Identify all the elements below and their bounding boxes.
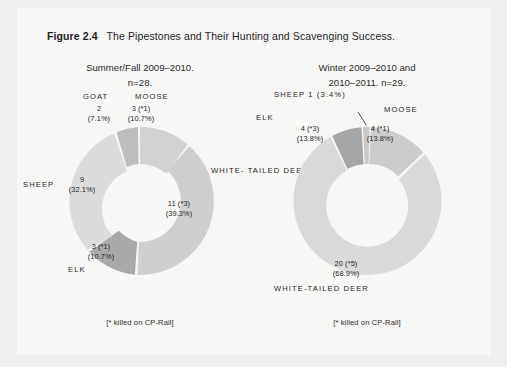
- figure-caption: Figure 2.4The Pipestones and Their Hunti…: [47, 30, 467, 42]
- value-left-elk-percent: (10.7%): [80, 252, 122, 262]
- label-left-sheep: SHEEP: [23, 180, 54, 190]
- value-right-elk: 4 (*3) (13.8%): [289, 124, 331, 143]
- value-right-wtd-count: 20 (*5): [323, 259, 369, 269]
- value-left-wtd-count: 11 (*3): [156, 199, 202, 209]
- value-left-moose-percent: (10.7%): [120, 114, 162, 124]
- value-left-sheep-percent: (32.1%): [61, 185, 103, 195]
- chart-panel-summer-fall: Summer/Fall 2009–2010. n=28. GOAT MOOSE …: [25, 60, 255, 345]
- label-right-moose: MOOSE: [384, 105, 418, 115]
- chart-panel-winter: Winter 2009–2010 and 2010–2011. n=29. SH…: [252, 60, 482, 345]
- figure-caption-text: The Pipestones and Their Hunting and Sca…: [107, 30, 396, 42]
- donut-chart-left: GOAT MOOSE SHEEP ELK WHITE- TAILED DEER …: [25, 108, 255, 298]
- figure-card: Figure 2.4The Pipestones and Their Hunti…: [17, 8, 490, 355]
- value-right-moose-count: 4 (*1): [358, 124, 402, 134]
- value-left-elk: 3 (*1) (10.7%): [80, 242, 122, 261]
- value-left-moose-count: 3 (*1): [120, 104, 162, 114]
- value-left-sheep-count: 9: [61, 175, 103, 185]
- chart-title-left-line1: Summer/Fall 2009–2010.: [25, 60, 255, 75]
- value-left-white-tailed-deer: 11 (*3) (39.3%): [156, 199, 202, 218]
- label-left-moose: MOOSE: [135, 92, 169, 102]
- donut-chart-right: SHEEP 1 (3.4%) ELK MOOSE WHITE-TAILED DE…: [252, 108, 482, 298]
- value-left-moose: 3 (*1) (10.7%): [120, 104, 162, 123]
- chart-title-left-line2: n=28.: [25, 75, 255, 90]
- value-left-goat: 2 (7.1%): [82, 104, 116, 123]
- chart-title-right: Winter 2009–2010 and 2010–2011. n=29.: [252, 60, 482, 90]
- label-right-white-tailed-deer: WHITE-TAILED DEER: [274, 284, 369, 294]
- chart-title-right-line2: 2010–2011. n=29.: [252, 75, 482, 90]
- chart-title-right-line1: Winter 2009–2010 and: [252, 60, 482, 75]
- label-right-elk: ELK: [256, 113, 274, 123]
- label-left-elk: ELK: [68, 265, 86, 275]
- label-left-wtd-line1: WHITE-: [211, 166, 245, 175]
- value-right-white-tailed-deer: 20 (*5) (68.9%): [323, 259, 369, 278]
- value-right-elk-count: 4 (*3): [289, 124, 331, 134]
- value-left-sheep: 9 (32.1%): [61, 175, 103, 194]
- value-left-goat-percent: (7.1%): [82, 114, 116, 124]
- value-left-wtd-percent: (39.3%): [156, 209, 202, 219]
- value-right-elk-percent: (13.8%): [289, 134, 331, 144]
- value-right-moose: 4 (*1) (13.8%): [358, 124, 402, 143]
- chart-title-left: Summer/Fall 2009–2010. n=28.: [25, 60, 255, 90]
- label-left-goat: GOAT: [83, 92, 108, 102]
- value-right-wtd-percent: (68.9%): [323, 269, 369, 279]
- label-right-sheep: SHEEP 1 (3.4%): [274, 90, 346, 100]
- value-right-moose-percent: (13.8%): [358, 134, 402, 144]
- footnote-left: [* killed on CP-Rail]: [25, 318, 255, 327]
- value-left-goat-count: 2: [82, 104, 116, 114]
- figure-number: Figure 2.4: [47, 30, 98, 42]
- value-left-elk-count: 3 (*1): [80, 242, 122, 252]
- footnote-right: [* killed on CP-Rail]: [252, 318, 482, 327]
